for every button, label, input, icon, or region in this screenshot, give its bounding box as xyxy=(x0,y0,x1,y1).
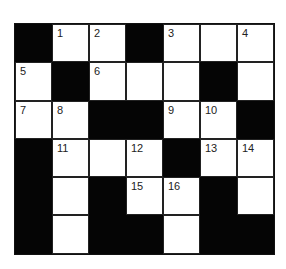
black-cell xyxy=(237,215,274,253)
crossword-cell[interactable]: 3 xyxy=(163,24,200,62)
crossword-cell[interactable]: 14 xyxy=(237,139,274,177)
clue-number: 12 xyxy=(131,143,143,154)
crossword-cell[interactable]: 8 xyxy=(52,101,89,139)
crossword-cell[interactable]: 5 xyxy=(15,62,52,100)
black-cell xyxy=(52,62,89,100)
black-cell xyxy=(126,215,163,253)
black-cell xyxy=(89,101,126,139)
black-cell xyxy=(15,215,52,253)
crossword-cell[interactable]: 16 xyxy=(163,177,200,215)
crossword-cell[interactable] xyxy=(163,215,200,253)
black-cell xyxy=(15,177,52,215)
black-cell xyxy=(15,139,52,177)
black-cell xyxy=(237,101,274,139)
black-cell xyxy=(163,139,200,177)
crossword-cell[interactable]: 6 xyxy=(89,62,126,100)
clue-number: 1 xyxy=(57,28,63,39)
crossword-grid: 12345678910111213141516 xyxy=(14,23,275,255)
black-cell xyxy=(126,101,163,139)
crossword-cell[interactable]: 10 xyxy=(200,101,237,139)
crossword-cell[interactable] xyxy=(52,177,89,215)
clue-number: 14 xyxy=(242,143,254,154)
clue-number: 13 xyxy=(205,143,217,154)
crossword-cell[interactable]: 1 xyxy=(52,24,89,62)
clue-number: 9 xyxy=(168,105,174,116)
clue-number: 5 xyxy=(20,66,26,77)
crossword-cell[interactable] xyxy=(200,24,237,62)
crossword-cell[interactable]: 13 xyxy=(200,139,237,177)
black-cell xyxy=(15,24,52,62)
crossword-cell[interactable] xyxy=(89,139,126,177)
crossword-cell[interactable] xyxy=(237,62,274,100)
clue-number: 10 xyxy=(205,105,217,116)
crossword-cell[interactable]: 12 xyxy=(126,139,163,177)
crossword-cell[interactable] xyxy=(237,177,274,215)
clue-number: 2 xyxy=(94,28,100,39)
crossword-cell[interactable]: 9 xyxy=(163,101,200,139)
crossword-cell[interactable]: 7 xyxy=(15,101,52,139)
crossword-cell[interactable] xyxy=(126,62,163,100)
clue-number: 15 xyxy=(131,181,143,192)
black-cell xyxy=(200,62,237,100)
clue-number: 7 xyxy=(20,105,26,116)
black-cell xyxy=(89,177,126,215)
clue-number: 3 xyxy=(168,28,174,39)
black-cell xyxy=(200,215,237,253)
clue-number: 6 xyxy=(94,66,100,77)
crossword-cell[interactable] xyxy=(52,215,89,253)
black-cell xyxy=(126,24,163,62)
crossword-cell[interactable]: 2 xyxy=(89,24,126,62)
crossword-cell[interactable]: 11 xyxy=(52,139,89,177)
clue-number: 16 xyxy=(168,181,180,192)
clue-number: 4 xyxy=(242,28,248,39)
clue-number: 8 xyxy=(57,105,63,116)
crossword-cell[interactable] xyxy=(163,62,200,100)
clue-number: 11 xyxy=(57,143,68,154)
crossword-cell[interactable]: 4 xyxy=(237,24,274,62)
black-cell xyxy=(200,177,237,215)
crossword-cell[interactable]: 15 xyxy=(126,177,163,215)
black-cell xyxy=(89,215,126,253)
